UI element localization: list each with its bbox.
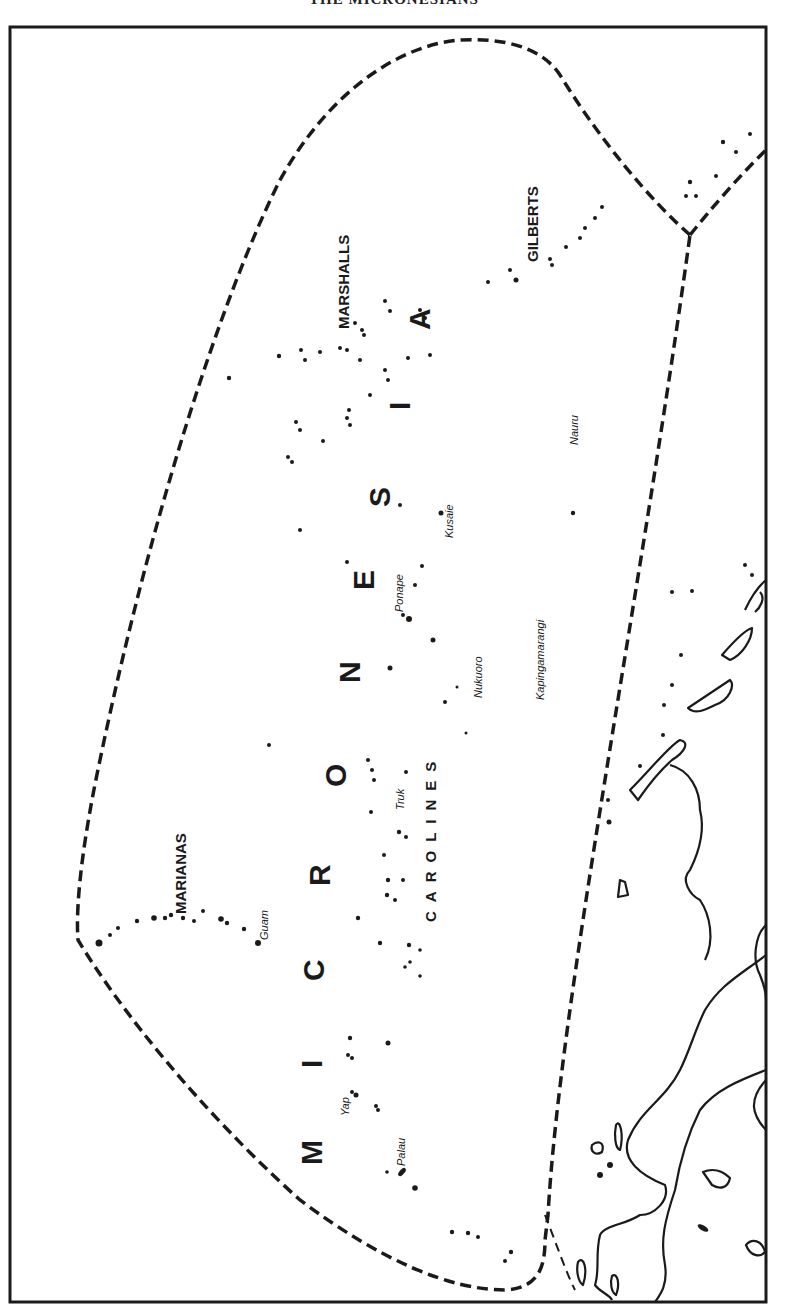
region-label-micronesia: M I C R O N E S I A [295,308,436,1165]
label-nukuoro: Nukuoro [472,656,484,698]
map-frame [10,27,766,1302]
region-letter: M [295,1140,328,1165]
label-gilberts: GILBERTS [524,186,541,262]
label-palau: Palau [395,1138,407,1166]
micronesia-boundary [77,40,690,1290]
label-guam: Guam [258,910,270,940]
melanesia-boundary [545,1215,575,1290]
region-letter: C [297,959,330,981]
label-truk: Truk [394,788,406,810]
region-letter: R [303,864,336,886]
label-kusaie: Kusaie [443,504,455,538]
region-letter: A [403,308,436,330]
label-marianas: MARIANAS [172,833,189,914]
label-ponape: Ponape [393,574,405,612]
region-letter: I [295,1060,328,1068]
label-nauru: Nauru [568,415,580,445]
region-letter: E [347,570,380,590]
label-marshalls: MARSHALLS [335,235,352,329]
region-letter: I [383,402,416,410]
landmass-new-guinea [577,580,766,1302]
region-letter: S [363,487,396,507]
label-carolines: CAROLINES [422,753,439,922]
polynesia-boundary [690,150,766,235]
label-kapingamarangi: Kapingamarangi [534,619,546,700]
region-letter: N [333,661,366,683]
region-letter: O [319,764,352,787]
micronesia-map: M I C R O N E S I A MARIANAS MARSHALLS G… [0,0,788,1316]
label-yap: Yap [339,1097,351,1116]
